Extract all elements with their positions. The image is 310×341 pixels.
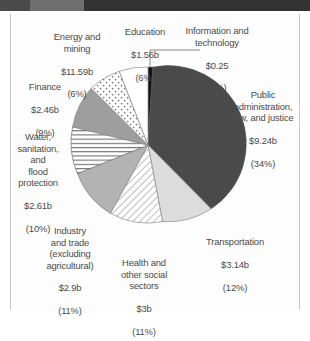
label-industry-percent: (11%) xyxy=(32,305,108,316)
label-education-title: Education xyxy=(116,26,174,37)
label-industry-value: $2.9b xyxy=(32,282,108,293)
label-education: Education $1.56b (6%) xyxy=(116,15,174,95)
label-industry-and-trade: Industry and trade (excluding agricultur… xyxy=(32,214,108,328)
label-health-percent: (11%) xyxy=(108,326,180,337)
label-health-value: $3b xyxy=(108,303,180,314)
label-transportation-percent: (12%) xyxy=(188,282,282,293)
label-water-title: Water, sanitation, and flood protection xyxy=(2,131,74,188)
label-energy-title: Energy and mining xyxy=(35,31,119,54)
label-health-and-other-social-sectors: Health and other social sectors $3b (11%… xyxy=(108,246,180,341)
label-infotech-title: Information and technology xyxy=(168,25,266,48)
label-education-value: $1.56b xyxy=(116,49,174,60)
label-transportation-value: $3.14b xyxy=(188,259,282,270)
label-infotech-value: $0.25 xyxy=(168,60,266,71)
label-transportation: Transportation $3.14b (12%) xyxy=(188,225,282,305)
label-health-title: Health and other social sectors xyxy=(108,257,180,291)
label-public-percent: (34%) xyxy=(220,158,306,169)
label-education-percent: (6%) xyxy=(116,72,174,83)
label-industry-title: Industry and trade (excluding agricultur… xyxy=(32,225,108,271)
label-water-value: $2.61b xyxy=(2,200,74,211)
label-public-value: $9.24b xyxy=(220,135,306,146)
label-transportation-title: Transportation xyxy=(188,236,282,247)
label-finance-value: $2.46b xyxy=(12,104,78,115)
label-public-administration: Public administration, law, and justice … xyxy=(220,78,306,181)
label-finance-title: Finance xyxy=(12,81,78,92)
label-public-title: Public administration, law, and justice xyxy=(220,89,306,123)
